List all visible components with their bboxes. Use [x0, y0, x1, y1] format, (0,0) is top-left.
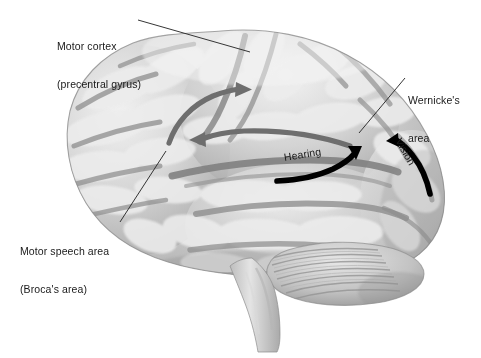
label-motor-cortex-line2: (precentral gyrus): [57, 78, 141, 91]
label-broca-line1: Motor speech area: [20, 245, 109, 258]
label-broca-line2: (Broca's area): [20, 283, 109, 296]
label-wernicke-line1: Wernicke's: [408, 94, 460, 107]
figure-canvas: Lateral view of the left cerebral hemisp…: [0, 0, 481, 358]
label-motor-cortex: Motor cortex (precentral gyrus): [57, 14, 141, 116]
label-wernicke-area: Wernicke's area: [408, 68, 460, 170]
label-motor-cortex-line1: Motor cortex: [57, 40, 141, 53]
label-broca-area: Motor speech area (Broca's area): [20, 219, 109, 321]
label-wernicke-line2: area: [408, 132, 460, 145]
